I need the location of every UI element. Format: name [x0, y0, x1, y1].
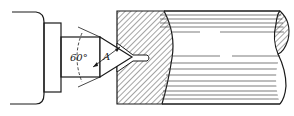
spindle-nose — [44, 23, 61, 92]
headstock — [10, 12, 44, 104]
angle-label: 60° — [70, 52, 88, 63]
lathe-center-diagram: 60° A — [0, 0, 294, 116]
dimension-label-a: A — [102, 51, 110, 62]
angle-extension-bottom — [78, 77, 100, 87]
workpiece-cylinder — [160, 11, 289, 104]
